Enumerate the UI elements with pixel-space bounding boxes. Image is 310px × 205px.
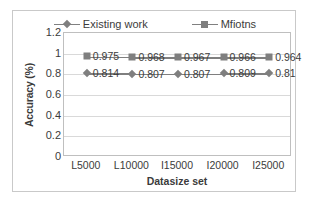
y-axis-tick-label: 1 — [21, 47, 61, 59]
square-marker-icon — [266, 54, 273, 61]
gridline — [64, 116, 290, 117]
y-axis-tick-label: 0.4 — [21, 109, 61, 121]
y-axis-tick-label: 0.6 — [21, 88, 61, 100]
square-marker-icon — [220, 54, 227, 61]
y-axis-tick-label: 1.2 — [21, 26, 61, 38]
square-marker-icon — [83, 53, 90, 60]
data-label: 0.975 — [93, 50, 119, 62]
x-axis-tick-label: I25000 — [252, 159, 284, 171]
chart-figure: Existing work Mfiotns Accuracy (%) 00.20… — [12, 10, 296, 192]
x-axis-tick-label: L5000 — [71, 159, 100, 171]
data-label: 0.814 — [93, 67, 119, 79]
data-label: 0.81 — [275, 67, 295, 79]
square-marker-icon — [129, 53, 136, 60]
legend-key-mfiotns — [192, 19, 218, 29]
data-label: 0.966 — [230, 51, 256, 63]
legend-label-existing-work: Existing work — [83, 18, 148, 30]
data-label: 0.964 — [275, 51, 301, 63]
data-label: 0.968 — [138, 51, 164, 63]
x-axis-tick-labels: L5000L10000I15000I20000I25000 — [63, 159, 291, 175]
square-marker-icon — [175, 54, 182, 61]
diamond-marker-icon — [265, 69, 273, 77]
diamond-marker-icon — [219, 69, 227, 77]
legend-item-mfiotns[interactable]: Mfiotns — [192, 18, 256, 30]
x-axis-title: Datasize set — [63, 175, 291, 187]
y-axis-tick-label: 0.2 — [21, 129, 61, 141]
data-label: 0.809 — [230, 67, 256, 79]
x-axis-tick-label: I20000 — [207, 159, 239, 171]
legend-label-mfiotns: Mfiotns — [221, 18, 256, 30]
x-axis-tick-label: I15000 — [161, 159, 193, 171]
x-axis-tick-label: L10000 — [114, 159, 149, 171]
y-axis-tick-label: 0 — [21, 150, 61, 162]
square-marker-icon — [201, 21, 208, 28]
diamond-marker-icon — [83, 69, 91, 77]
plot-area: 0.8140.8070.8070.8090.810.9750.9680.9670… — [63, 32, 291, 156]
data-label: 0.807 — [184, 68, 210, 80]
y-axis-tick-label: 0.8 — [21, 67, 61, 79]
gridline — [64, 95, 290, 96]
data-label: 0.807 — [138, 68, 164, 80]
y-axis-tick-labels: 00.20.40.60.811.2 — [21, 32, 61, 156]
diamond-marker-icon — [174, 69, 182, 77]
gridline — [64, 136, 290, 137]
legend-item-existing-work[interactable]: Existing work — [54, 18, 148, 30]
diamond-marker-icon — [63, 20, 71, 28]
data-label: 0.967 — [184, 51, 210, 63]
diamond-marker-icon — [128, 69, 136, 77]
